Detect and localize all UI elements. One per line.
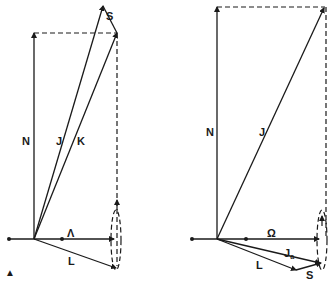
label-ja-right: Ja	[284, 247, 294, 260]
vector-j-right	[217, 8, 324, 239]
label-l-right: L	[256, 259, 263, 271]
precession-ellipse-left	[111, 210, 121, 270]
axis-end-dot-left	[7, 237, 11, 241]
label-s-right: S	[306, 269, 313, 281]
label-l-left: L	[68, 255, 75, 267]
label-lambda-left: Λ	[67, 227, 75, 239]
corner-triangle-mark: ▲	[5, 267, 15, 278]
omega-dot	[244, 237, 248, 241]
label-n-left: N	[22, 135, 30, 147]
label-j-right: J	[259, 126, 265, 138]
lambda-dot	[60, 237, 64, 241]
axis-end-dot-right	[190, 237, 194, 241]
vector-l-left	[34, 239, 116, 268]
label-k-left: K	[77, 135, 85, 147]
vector-j-left	[34, 6, 103, 239]
label-n-right: N	[206, 126, 214, 138]
label-j-left: J	[56, 135, 62, 147]
left-panel: S N J K Λ L ▲	[5, 6, 121, 278]
label-s-left: S	[106, 10, 113, 22]
label-omega-right: Ω	[267, 227, 276, 239]
right-panel: N J Ω Ja L S	[190, 7, 327, 281]
vector-coupling-diagram: S N J K Λ L ▲ N J Ω Ja L S	[0, 0, 331, 282]
vector-k-left	[34, 33, 117, 239]
